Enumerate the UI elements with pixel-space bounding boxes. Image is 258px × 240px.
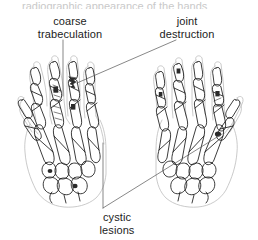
left-metacarpals <box>34 125 100 165</box>
hand-radiograph-diagram <box>0 0 258 240</box>
cyst-marker <box>71 104 75 110</box>
cyst-marker <box>48 169 53 173</box>
right-metacarpals <box>158 125 224 165</box>
right-index-finger <box>173 63 187 130</box>
right-hand <box>154 56 243 207</box>
left-middle-finger <box>49 61 63 128</box>
right-ring-finger <box>212 67 225 131</box>
right-middle-finger <box>193 61 206 128</box>
left-hand <box>18 56 106 207</box>
cyst-marker <box>72 184 77 188</box>
left-ring-finger <box>68 61 81 128</box>
leader-joint-destruction <box>77 40 176 83</box>
left-carpal-bones <box>42 161 95 203</box>
cyst-marker <box>215 131 221 136</box>
left-hand-soft-tissue <box>18 56 106 207</box>
cyst-marker <box>215 91 219 96</box>
cyst-marker <box>159 92 163 97</box>
cyst-marker <box>53 87 58 93</box>
leader-cystic-right <box>103 134 222 208</box>
cyst-marker <box>177 69 181 74</box>
right-carpal-bones <box>163 161 216 203</box>
